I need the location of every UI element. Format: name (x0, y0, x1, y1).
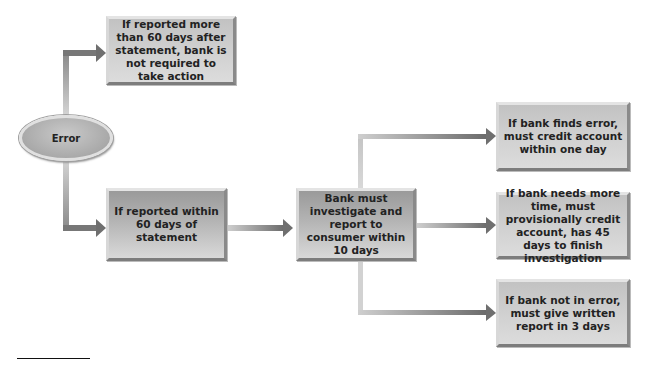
arrowhead-icon (486, 128, 496, 145)
late-report-box: If reported more than 60 days after stat… (106, 16, 236, 85)
late-report-label: If reported more than 60 days after stat… (109, 18, 233, 83)
not-in-error-label: If bank not in error, must give written … (499, 294, 627, 333)
timely-report-box: If reported within 60 days of statement (106, 188, 227, 261)
arrowhead-icon (486, 217, 496, 234)
investigate-label: Bank must investigate and report to cons… (299, 192, 413, 257)
not-in-error-box: If bank not in error, must give written … (496, 279, 630, 347)
more-time-box: If bank needs more time, must provisiona… (496, 192, 630, 259)
investigate-box: Bank must investigate and report to cons… (296, 188, 416, 261)
footnote-divider (17, 358, 90, 359)
connector-investigate-to-not-in-error (358, 258, 496, 321)
arrowhead-icon (96, 219, 106, 237)
connector-investigate-to-more-time (416, 217, 496, 234)
arrowhead-icon (283, 219, 293, 237)
connector-error-to-timely-report (63, 157, 106, 237)
finds-error-label: If bank finds error, must credit account… (499, 117, 627, 156)
timely-report-label: If reported within 60 days of statement (109, 205, 224, 244)
connector-error-to-late-report (63, 44, 106, 117)
error-start-node: Error (19, 115, 113, 161)
finds-error-box: If bank finds error, must credit account… (496, 102, 630, 171)
connector-timely-to-investigate (227, 219, 293, 237)
more-time-label: If bank needs more time, must provisiona… (499, 187, 627, 265)
arrowhead-icon (486, 304, 496, 321)
arrowhead-icon (96, 44, 106, 62)
flowchart-canvas: If reported more than 60 days after stat… (0, 0, 650, 366)
error-label: Error (52, 133, 81, 144)
connector-investigate-to-finds-error (358, 128, 496, 188)
